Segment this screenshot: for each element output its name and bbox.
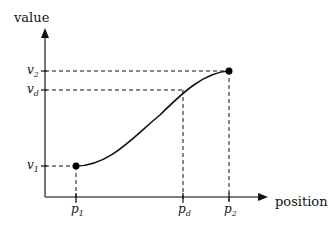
end-point [226, 68, 233, 75]
v1-label: v1 [27, 158, 39, 174]
y-axis-label: value [13, 10, 50, 25]
p2-label: p2 [224, 202, 237, 218]
y-axis-arrow-icon [41, 28, 49, 38]
vd-label: vd [27, 82, 39, 98]
value-curve [76, 71, 229, 166]
start-point [73, 163, 80, 170]
diagram: value position v2 vd v1 p1 pd p2 [0, 0, 332, 228]
v2-label: v2 [27, 63, 39, 79]
p1-label: p1 [71, 202, 84, 218]
x-axis-label: position [275, 194, 328, 209]
x-axis-arrow-icon [258, 193, 268, 201]
pd-label: pd [178, 202, 191, 218]
